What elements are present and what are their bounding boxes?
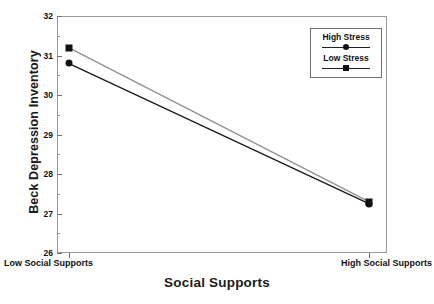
y-tick-mark — [57, 214, 62, 215]
legend-entry-low-stress: Low Stress — [315, 53, 377, 73]
y-tick-minor — [57, 194, 60, 195]
y-tick-label: 28 — [13, 169, 53, 179]
legend-sample-low-stress — [315, 64, 377, 73]
y-tick-label: 27 — [13, 209, 53, 219]
y-tick-mark — [57, 135, 62, 136]
y-tick-minor — [57, 115, 60, 116]
legend: High Stress Low Stress — [310, 28, 382, 78]
legend-label-high-stress: High Stress — [315, 32, 377, 43]
y-tick-mark — [57, 56, 62, 57]
y-tick-label: 31 — [13, 51, 53, 61]
circle-marker-icon — [65, 60, 72, 67]
y-tick-mark — [57, 253, 62, 254]
x-category-label-high: High Social Supports — [341, 258, 432, 268]
legend-sample-high-stress — [315, 43, 377, 52]
y-tick-mark — [57, 95, 62, 96]
y-tick-minor — [57, 36, 60, 37]
y-tick-label: 32 — [13, 11, 53, 21]
x-category-label-low: Low Social Supports — [4, 258, 93, 268]
y-tick-minor — [57, 75, 60, 76]
y-tick-label: 30 — [13, 90, 53, 100]
y-tick-label: 29 — [13, 130, 53, 140]
y-tick-minor — [57, 233, 60, 234]
square-marker-icon — [65, 44, 72, 51]
x-axis-title: Social Supports — [0, 275, 434, 290]
y-tick-mark — [57, 174, 62, 175]
legend-entry-high-stress: High Stress — [315, 32, 377, 52]
legend-label-low-stress: Low Stress — [315, 53, 377, 64]
y-tick-mark — [57, 16, 62, 17]
line-chart: Beck Depression Inventory 26272829303132… — [0, 0, 434, 304]
y-tick-label: 26 — [13, 248, 53, 258]
y-tick-minor — [57, 154, 60, 155]
square-marker-icon — [365, 198, 372, 205]
square-marker-icon — [343, 65, 349, 71]
circle-marker-icon — [343, 44, 349, 50]
